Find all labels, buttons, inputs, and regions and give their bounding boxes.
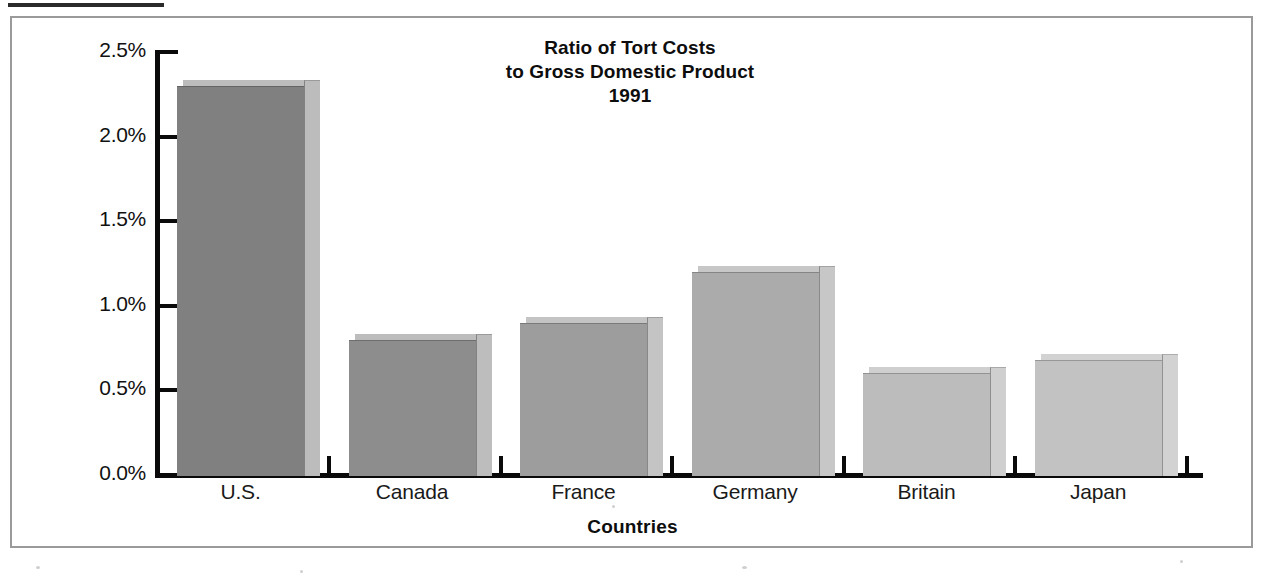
x-axis-tick — [842, 456, 846, 474]
bar-front-face — [349, 340, 476, 476]
bar-front-face — [520, 323, 647, 476]
x-axis-label-france: France — [484, 480, 684, 504]
x-axis-title: Countries — [0, 516, 1265, 538]
x-axis-label-japan: Japan — [998, 480, 1198, 504]
scan-speckle — [612, 505, 615, 508]
bar-side-face — [1162, 354, 1178, 476]
scan-speckle — [742, 566, 747, 569]
y-axis-tick — [160, 135, 178, 139]
bar-side-face — [819, 266, 835, 476]
bar-side-face — [476, 334, 492, 476]
y-axis-tick-label: 2.0% — [60, 123, 146, 147]
bar-front-face — [177, 86, 304, 476]
y-axis-tick — [160, 473, 178, 477]
bar-chart-plot: 0.0%0.5%1.0%1.5%2.0%2.5% U.S.CanadaFranc… — [0, 0, 1265, 578]
x-axis-tick — [1185, 456, 1189, 474]
bar-france[interactable] — [520, 0, 662, 475]
bar-side-face — [990, 367, 1006, 476]
scanned-page: Ratio of Tort Costs to Gross Domestic Pr… — [0, 0, 1265, 578]
y-axis-tick-label: 0.5% — [60, 376, 146, 400]
y-axis-tick-label: 2.5% — [60, 38, 146, 62]
bar-front-face — [863, 373, 990, 476]
bar-u-s[interactable] — [177, 0, 319, 475]
y-axis-tick — [160, 304, 178, 308]
bar-front-face — [1035, 360, 1162, 476]
bar-britain[interactable] — [863, 0, 1005, 475]
y-axis-tick-label: 1.0% — [60, 292, 146, 316]
bar-side-face — [647, 317, 663, 476]
x-axis-tick — [327, 456, 331, 474]
bar-japan[interactable] — [1035, 0, 1177, 475]
scan-speckle — [300, 570, 303, 573]
y-axis-tick-label: 0.0% — [60, 461, 146, 485]
y-axis-tick-label: 1.5% — [60, 207, 146, 231]
scan-speckle — [36, 566, 40, 569]
bar-canada[interactable] — [349, 0, 491, 475]
x-axis-tick — [670, 456, 674, 474]
x-axis-label-britain: Britain — [827, 480, 1027, 504]
scan-speckle — [1180, 560, 1183, 563]
x-axis-tick — [499, 456, 503, 474]
bar-germany[interactable] — [692, 0, 834, 475]
x-axis-label-u-s: U.S. — [141, 480, 341, 504]
y-axis-line — [155, 50, 160, 478]
y-axis-tick — [160, 219, 178, 223]
y-axis-tick — [160, 50, 178, 54]
bar-side-face — [304, 80, 320, 476]
x-axis-label-germany: Germany — [655, 480, 855, 504]
x-axis-tick — [1013, 456, 1017, 474]
y-axis-tick — [160, 388, 178, 392]
x-axis-label-canada: Canada — [312, 480, 512, 504]
bar-front-face — [692, 272, 819, 476]
